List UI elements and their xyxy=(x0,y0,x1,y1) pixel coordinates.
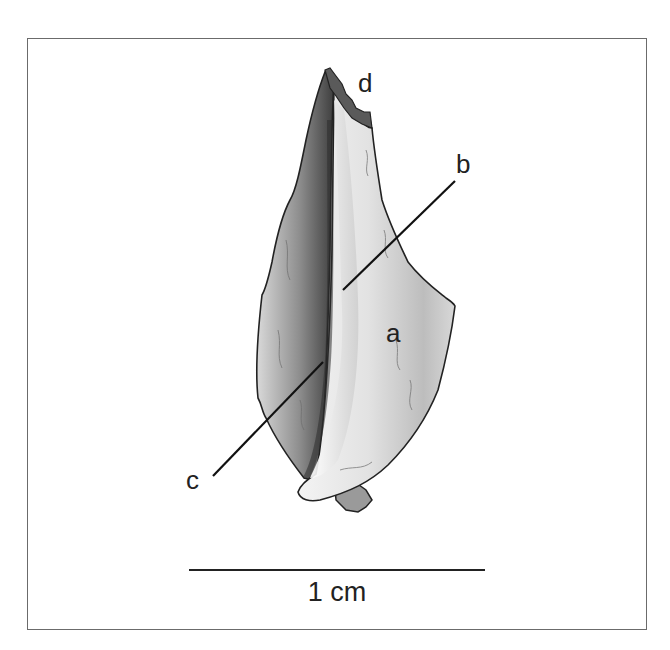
label-a: a xyxy=(386,320,400,346)
label-b: b xyxy=(456,151,470,177)
scale-label: 1 cm xyxy=(189,577,485,608)
scale-bar xyxy=(189,569,485,571)
label-c: c xyxy=(186,467,199,493)
label-d: d xyxy=(358,70,372,96)
bone-fragment-illustration xyxy=(0,0,670,650)
